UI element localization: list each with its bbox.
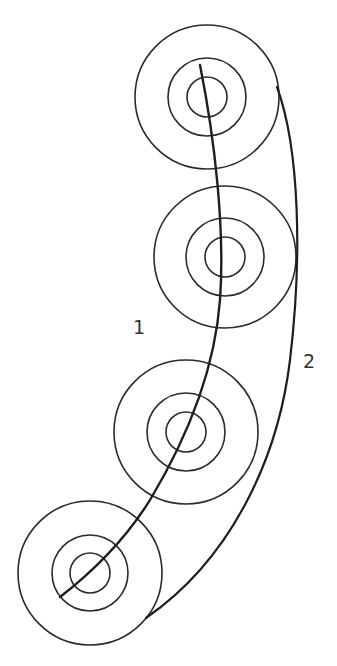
trajectory-diagram: 1 2 — [0, 0, 337, 666]
path-2-label: 2 — [303, 350, 315, 372]
inner-ring — [205, 237, 245, 277]
outer-ring — [154, 186, 296, 328]
trajectory-path-2 — [146, 87, 297, 618]
circle-set-2 — [154, 186, 296, 328]
path-1-label: 1 — [133, 316, 145, 338]
middle-ring — [186, 218, 264, 296]
